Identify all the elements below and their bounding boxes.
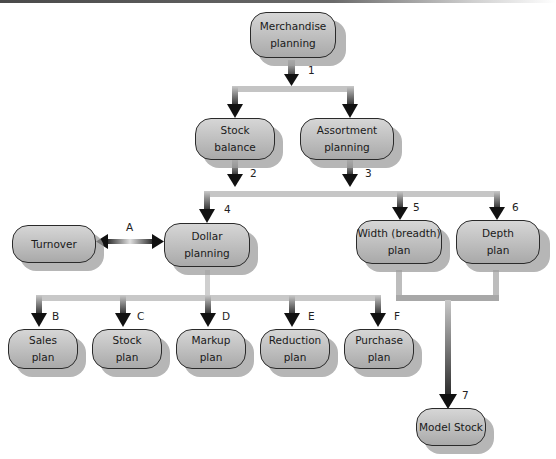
node-label: Model Stock (419, 419, 483, 436)
node-label: Turnover (31, 236, 77, 253)
node-stock-plan[interactable]: Stock plan (92, 329, 162, 369)
node-label: Dollar planning (184, 228, 230, 262)
node-label: Width (breadth) plan (357, 225, 440, 259)
node-width-breadth-plan[interactable]: Width (breadth) plan (356, 220, 442, 264)
node-merchandise-planning[interactable]: Merchandise planning (250, 12, 336, 58)
step-label-5: 5 (413, 201, 420, 213)
step-label-c: C (137, 310, 144, 322)
node-label: Markup plan (192, 332, 231, 366)
step-label-b: B (52, 310, 59, 322)
node-purchase-plan[interactable]: Purchase plan (344, 329, 414, 369)
node-label: Assortment planning (317, 122, 377, 156)
node-assortment-planning[interactable]: Assortment planning (300, 118, 394, 160)
arrows-b-to-f (31, 270, 386, 327)
node-label: Merchandise planning (260, 18, 327, 52)
node-depth-plan[interactable]: Depth plan (456, 220, 540, 264)
node-label: Stock balance (214, 122, 255, 156)
node-label: Sales plan (29, 332, 57, 366)
node-markup-plan[interactable]: Markup plan (176, 329, 246, 369)
node-label: Stock plan (112, 332, 141, 366)
arrow-1 (227, 60, 358, 118)
node-turnover[interactable]: Turnover (12, 225, 96, 263)
node-label: Purchase plan (355, 332, 403, 366)
node-stock-balance[interactable]: Stock balance (195, 118, 275, 160)
arrow-a-bidirectional (96, 234, 164, 249)
node-sales-plan[interactable]: Sales plan (8, 329, 78, 369)
step-label-e: E (308, 310, 315, 322)
step-label-7: 7 (462, 389, 469, 401)
step-label-f: F (394, 310, 400, 322)
node-dollar-planning[interactable]: Dollar planning (164, 223, 250, 267)
node-model-stock[interactable]: Model Stock (416, 408, 486, 446)
step-label-d: D (222, 310, 230, 322)
node-label: Depth plan (482, 225, 514, 259)
node-reduction-plan[interactable]: Reduction plan (260, 329, 330, 369)
step-label-4: 4 (224, 203, 231, 215)
step-label-3: 3 (365, 167, 372, 179)
step-label-a: A (126, 221, 133, 233)
step-label-6: 6 (512, 201, 519, 213)
step-label-2: 2 (250, 167, 257, 179)
step-label-1: 1 (308, 64, 315, 76)
node-label: Reduction plan (269, 332, 322, 366)
